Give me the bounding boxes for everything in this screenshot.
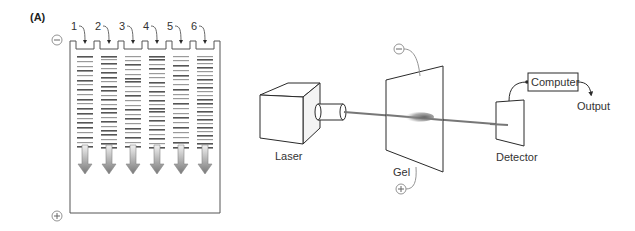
dna-band <box>101 130 117 132</box>
gel-label: Gel <box>393 166 410 178</box>
dna-band <box>197 83 213 84</box>
lane-labels: 123456 <box>71 20 205 42</box>
dna-band <box>197 63 213 64</box>
gel-negative-electrode-icon <box>394 44 404 54</box>
dna-band <box>77 108 93 110</box>
dna-band <box>101 59 117 60</box>
dna-band <box>77 70 93 72</box>
dna-band <box>149 68 165 70</box>
dna-band <box>197 91 213 92</box>
dna-band <box>77 137 93 139</box>
dna-band <box>197 99 213 101</box>
slab-gel: 123456 <box>52 20 220 221</box>
dna-band <box>77 56 93 58</box>
lane-pointer-arrow-icon <box>103 26 109 42</box>
dna-band <box>197 59 213 61</box>
dna-band <box>173 98 189 99</box>
dna-band <box>101 68 117 69</box>
dna-band <box>173 108 189 109</box>
dna-band <box>197 79 213 81</box>
output-label: Output <box>577 100 610 112</box>
dna-band <box>77 89 93 91</box>
dna-band <box>173 75 189 77</box>
dna-band <box>125 74 141 75</box>
dna-band <box>125 114 141 115</box>
lane-pointer-arrow-icon <box>127 26 133 42</box>
dna-band <box>101 63 117 65</box>
dna-band <box>197 75 213 76</box>
lane-number-label: 3 <box>119 20 125 32</box>
lane-pointer-arrow-icon <box>151 26 157 42</box>
dna-band <box>101 72 117 74</box>
dna-band <box>173 113 189 114</box>
dna-band <box>173 79 189 80</box>
dna-band <box>125 132 141 133</box>
positive-electrode-icon <box>52 211 62 221</box>
dna-band <box>101 86 117 88</box>
lane-pointer-arrow-icon <box>79 26 85 42</box>
dna-band <box>77 94 93 95</box>
dna-band-blob <box>402 112 434 122</box>
dna-band <box>101 56 117 58</box>
dna-band <box>125 105 141 106</box>
panel-label: (A) <box>30 11 46 23</box>
dna-band <box>149 120 165 122</box>
dna-band <box>173 70 189 71</box>
detector-label: Detector <box>496 151 538 163</box>
dna-band <box>125 91 141 92</box>
lane-number-label: 1 <box>71 20 77 32</box>
dna-band <box>125 56 141 57</box>
dna-band <box>149 143 165 144</box>
laser-label: Laser <box>275 150 303 162</box>
dna-band <box>149 116 165 117</box>
dna-band <box>173 60 189 61</box>
dna-band <box>173 122 189 123</box>
dna-band <box>101 121 117 123</box>
detector <box>496 100 524 146</box>
dna-band <box>149 82 165 84</box>
dna-band <box>149 56 165 58</box>
dna-band <box>149 77 165 78</box>
dna-band <box>125 123 141 124</box>
dna-band <box>101 99 117 101</box>
dna-band <box>149 138 165 140</box>
dna-band <box>197 87 213 89</box>
electrophoresis-figure: (A) 123456 <box>0 0 635 231</box>
dna-band <box>197 143 213 145</box>
computer-label: Computer <box>531 76 580 88</box>
dna-band <box>149 91 165 93</box>
dna-band <box>149 125 165 126</box>
dna-band <box>149 64 165 65</box>
dna-band <box>197 95 213 96</box>
dna-band <box>125 86 141 87</box>
dna-band <box>101 134 117 136</box>
dna-band <box>125 60 141 61</box>
dna-band <box>173 103 189 105</box>
dna-band <box>101 95 117 96</box>
dna-band <box>77 75 93 76</box>
dna-band <box>197 119 213 121</box>
dna-band <box>149 129 165 131</box>
dna-band <box>149 59 165 61</box>
dna-band <box>77 66 93 67</box>
dna-band <box>149 100 165 102</box>
dna-band <box>173 137 189 138</box>
dna-band <box>77 113 93 115</box>
dna-band <box>149 95 165 96</box>
dna-band <box>101 90 117 92</box>
dna-band <box>197 111 213 113</box>
dna-band <box>125 95 141 97</box>
capillary-setup: Laser Gel Detector Computer <box>260 44 610 194</box>
dna-band <box>197 135 213 137</box>
lane-number-label: 2 <box>95 20 101 32</box>
dna-band <box>101 104 117 105</box>
dna-band <box>77 103 93 104</box>
lane-number-label: 5 <box>167 20 173 32</box>
dna-band <box>77 127 93 129</box>
dna-band <box>77 132 93 133</box>
detector-computer-connector <box>509 82 527 101</box>
lane-pointer-arrow-icon <box>199 26 205 42</box>
dna-band <box>101 126 117 127</box>
dna-band <box>149 73 165 74</box>
dna-band <box>125 137 141 139</box>
